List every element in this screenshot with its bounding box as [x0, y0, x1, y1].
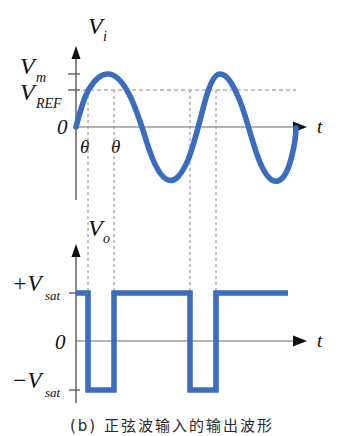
- vo-y-axis-arrow: [72, 244, 81, 257]
- vref-label: V: [20, 79, 37, 105]
- vref-label-sub: REF: [35, 96, 62, 111]
- vo-axis-label-sub: o: [103, 231, 110, 246]
- vo-x-axis-label: t: [317, 330, 323, 351]
- minus-vsat-label: −V: [12, 368, 45, 393]
- vo-origin-label: 0: [55, 330, 66, 354]
- plus-vsat-label-sub: sat: [45, 288, 61, 303]
- waveform-svg: V i t V m V REF 0 θ θ V o: [0, 0, 344, 436]
- vi-x-axis-label: t: [317, 116, 323, 137]
- vi-y-axis-arrow: [72, 46, 81, 59]
- vo-x-axis-arrow: [293, 336, 307, 347]
- vm-label-sub: m: [36, 70, 46, 85]
- figure-caption: (b) 正弦波输入的输出波形: [0, 416, 344, 436]
- comparator-waveform-figure: V i t V m V REF 0 θ θ V o: [0, 0, 344, 436]
- minus-vsat-label-sub: sat: [45, 385, 61, 400]
- plus-vsat-label: +V: [12, 271, 45, 296]
- input-sine-waveform: [76, 74, 296, 181]
- vi-axis-label-sub: i: [103, 29, 107, 44]
- vi-origin-label: 0: [57, 115, 68, 139]
- theta-label-2: θ: [111, 136, 120, 157]
- vm-label: V: [20, 53, 37, 79]
